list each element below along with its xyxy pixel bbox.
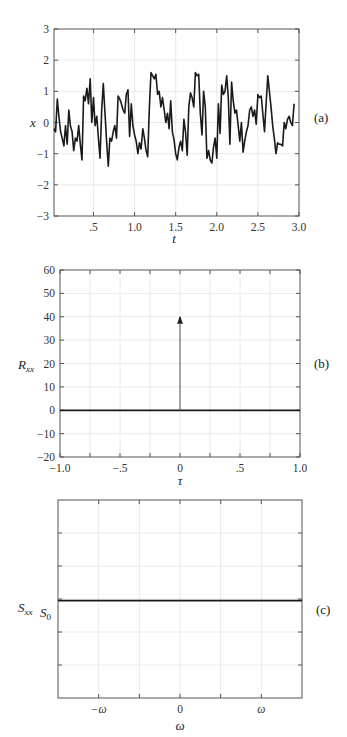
y-tick-label: 60 [44, 264, 56, 276]
chart-c-level-label: S0 [40, 605, 52, 622]
x-tick-label: 2.0 [210, 221, 225, 233]
y-tick-label: 20 [44, 358, 56, 370]
chart-b-autocorrelation: −1.0−.50.51.0−20−100102030405060 [37, 264, 307, 474]
y-tick-label: 50 [44, 287, 56, 299]
x-tick-label: −ω [91, 703, 107, 715]
figure: .51.01.52.02.53.0−3−2−10123 x t (a) −1.0… [0, 0, 347, 737]
chart-c-level-sub: 0 [47, 612, 52, 622]
y-tick-label: −20 [37, 451, 55, 463]
y-tick-label: −2 [37, 179, 49, 191]
chart-b-ylabel: Rxx [17, 357, 34, 374]
chart-c-ylabel-sub: xx [24, 607, 33, 617]
y-tick-label: 2 [43, 54, 49, 66]
y-tick-label: 30 [44, 334, 56, 346]
chart-b-xlabel: τ [178, 473, 184, 488]
x-tick-label: ω [257, 703, 265, 715]
chart-c-power-spectrum: −ω0ω [58, 500, 302, 715]
chart-a-panel-label: (a) [314, 110, 328, 125]
x-tick-label: .5 [89, 221, 98, 233]
y-tick-label: 3 [43, 23, 49, 35]
x-tick-label: 1.0 [293, 462, 308, 474]
y-tick-label: 10 [44, 381, 56, 393]
x-tick-label: −.5 [112, 462, 127, 474]
x-tick-label: 0 [177, 703, 183, 715]
chart-c-ylabel: Sxx [18, 600, 33, 617]
x-tick-label: 3.0 [292, 221, 307, 233]
chart-b-panel-label: (b) [314, 356, 329, 371]
x-tick-label: .5 [236, 462, 245, 474]
y-tick-label: −1 [37, 148, 49, 160]
chart-a-ylabel: x [29, 115, 36, 130]
x-tick-label: −1.0 [50, 462, 71, 474]
chart-c-xlabel: ω [175, 718, 184, 733]
y-tick-label: −3 [37, 210, 49, 222]
x-tick-label: 2.5 [251, 221, 266, 233]
chart-b-ylabel-main: R [17, 357, 26, 372]
x-tick-label: 1.0 [127, 221, 142, 233]
y-tick-label: 1 [43, 85, 49, 97]
y-tick-label: −10 [37, 428, 55, 440]
chart-b-ylabel-sub: xx [25, 364, 34, 374]
chart-c-panel-label: (c) [316, 602, 330, 617]
y-tick-label: 0 [49, 404, 55, 416]
y-tick-label: 40 [44, 311, 56, 323]
y-tick-label: 0 [43, 117, 49, 129]
chart-a-xlabel: t [172, 231, 176, 246]
chart-a-random-signal: .51.01.52.02.53.0−3−2−10123 [37, 23, 307, 233]
